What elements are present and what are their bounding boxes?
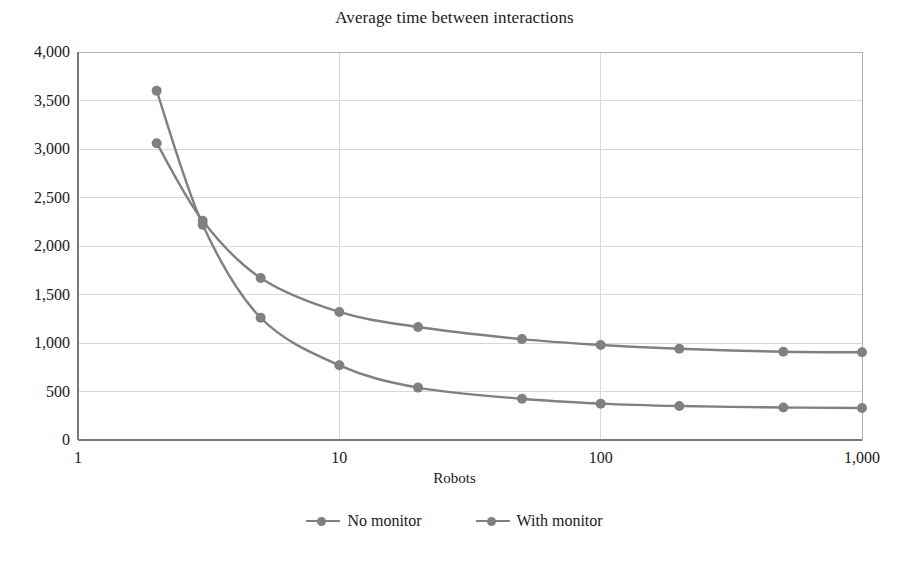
legend-marker-icon xyxy=(476,515,510,527)
chart-container: Average time between interactions 05001,… xyxy=(0,0,909,568)
x-axis-tick-label: 10 xyxy=(331,450,347,466)
y-axis-tick-label: 0 xyxy=(4,432,70,448)
y-axis-tick-label: 1,000 xyxy=(4,335,70,351)
y-axis-tick-label: 2,500 xyxy=(4,190,70,206)
series-lines xyxy=(157,91,862,408)
y-axis-tick-label: 1,500 xyxy=(4,287,70,303)
chart-legend: No monitor With monitor xyxy=(0,512,909,530)
series-markers xyxy=(152,86,867,413)
legend-label: With monitor xyxy=(517,512,603,530)
legend-marker-icon xyxy=(306,515,340,527)
legend-label: No monitor xyxy=(347,512,421,530)
y-axis-tick-label: 4,000 xyxy=(4,44,70,60)
x-axis-label: Robots xyxy=(0,470,909,487)
x-axis-tick-label: 1,000 xyxy=(844,450,880,466)
y-axis-tick-label: 2,000 xyxy=(4,238,70,254)
legend-item-with-monitor[interactable]: With monitor xyxy=(476,512,603,530)
x-axis-tick-label: 100 xyxy=(589,450,613,466)
gridlines xyxy=(78,52,862,440)
legend-item-no-monitor[interactable]: No monitor xyxy=(306,512,421,530)
y-axis-tick-label: 3,500 xyxy=(4,93,70,109)
y-axis-tick-label: 500 xyxy=(4,384,70,400)
y-axis-tick-label: 3,000 xyxy=(4,141,70,157)
x-axis-tick-label: 1 xyxy=(74,450,82,466)
